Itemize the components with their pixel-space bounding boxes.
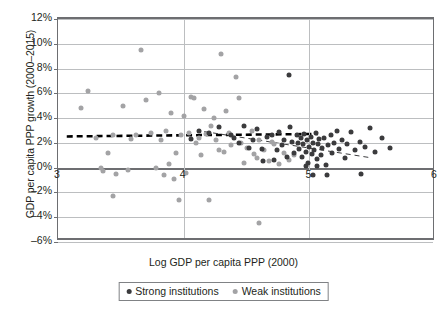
y-tick-label: 4% xyxy=(4,110,52,122)
data-point-strong xyxy=(387,145,392,150)
data-point-weak xyxy=(277,161,282,166)
x-tick-label: 6 xyxy=(431,168,437,180)
gridline-horizontal xyxy=(58,19,433,20)
data-point-weak xyxy=(229,143,234,148)
y-tick-mark xyxy=(54,242,58,243)
data-point-strong xyxy=(297,147,302,152)
y-tick-label: 0% xyxy=(4,160,52,172)
data-point-weak xyxy=(126,168,131,173)
y-tick-mark xyxy=(54,192,58,193)
gridline-horizontal xyxy=(58,93,433,94)
plot-area xyxy=(57,17,434,240)
data-point-strong xyxy=(314,164,319,169)
y-tick-label: –2% xyxy=(4,184,52,196)
data-point-weak xyxy=(113,171,118,176)
data-point-weak xyxy=(219,51,224,56)
data-point-strong xyxy=(302,132,307,137)
data-point-strong xyxy=(274,148,279,153)
data-point-strong xyxy=(308,134,313,139)
x-tick-label: 3 xyxy=(54,168,60,180)
data-point-weak xyxy=(98,165,103,170)
y-tick-label: 10% xyxy=(4,36,52,48)
data-point-strong xyxy=(287,72,292,77)
data-point-weak xyxy=(214,138,219,143)
data-point-weak xyxy=(194,140,199,145)
data-point-weak xyxy=(191,96,196,101)
data-point-strong xyxy=(358,171,363,176)
gridline-horizontal xyxy=(58,143,433,144)
y-tick-label: 8% xyxy=(4,61,52,73)
data-point-strong xyxy=(231,135,236,140)
data-point-strong xyxy=(352,148,357,153)
data-point-strong xyxy=(342,155,347,160)
data-point-weak xyxy=(121,103,126,108)
data-point-strong xyxy=(216,124,221,129)
data-point-weak xyxy=(181,113,186,118)
y-tick-label: –4% xyxy=(4,209,52,221)
data-point-strong xyxy=(299,154,304,159)
data-point-weak xyxy=(111,194,116,199)
data-point-strong xyxy=(367,126,372,131)
gridline-vertical xyxy=(309,19,310,238)
data-point-weak xyxy=(252,152,257,157)
data-point-strong xyxy=(289,139,294,144)
data-point-strong xyxy=(206,130,211,135)
data-point-strong xyxy=(337,147,342,152)
gridline-horizontal xyxy=(58,44,433,45)
data-point-strong xyxy=(292,150,297,155)
x-tick-label: 5 xyxy=(305,168,311,180)
data-point-weak xyxy=(257,138,262,143)
data-point-weak xyxy=(241,160,246,165)
data-point-strong xyxy=(328,133,333,138)
data-point-strong xyxy=(250,138,255,143)
gridline-vertical xyxy=(184,19,185,238)
data-point-weak xyxy=(201,107,206,112)
data-point-weak xyxy=(171,176,176,181)
data-point-strong xyxy=(322,135,327,140)
data-point-strong xyxy=(247,145,252,150)
y-tick-mark xyxy=(54,19,58,20)
legend-marker-weak-icon xyxy=(233,289,238,294)
data-point-weak xyxy=(156,91,161,96)
data-point-strong xyxy=(303,149,308,154)
x-tick-label: 4 xyxy=(180,168,186,180)
y-tick-label: –6% xyxy=(4,234,52,246)
data-point-weak xyxy=(221,149,226,154)
chart-legend: Strong institutions Weak institutions xyxy=(118,282,329,301)
data-point-weak xyxy=(166,161,171,166)
data-point-strong xyxy=(241,123,246,128)
data-point-strong xyxy=(323,163,328,168)
data-point-strong xyxy=(348,129,353,134)
data-point-strong xyxy=(254,127,259,132)
scatter-chart: GDP per capita PPP growth (2000–2015) Lo… xyxy=(0,0,447,311)
data-point-strong xyxy=(288,124,293,129)
data-point-strong xyxy=(332,140,337,145)
trendline-layer xyxy=(58,19,433,238)
gridline-horizontal xyxy=(58,69,433,70)
y-tick-label: 2% xyxy=(4,135,52,147)
data-point-strong xyxy=(324,173,329,178)
data-point-strong xyxy=(312,148,317,153)
data-point-strong xyxy=(318,153,323,158)
y-tick-mark xyxy=(54,93,58,94)
data-point-strong xyxy=(345,142,350,147)
y-tick-label: 6% xyxy=(4,85,52,97)
data-point-weak xyxy=(159,138,164,143)
data-point-weak xyxy=(196,135,201,140)
data-point-weak xyxy=(269,139,274,144)
data-point-strong xyxy=(277,129,282,134)
data-point-strong xyxy=(259,147,264,152)
data-point-strong xyxy=(279,143,284,148)
legend-label-strong: Strong institutions xyxy=(135,285,218,297)
data-point-weak xyxy=(128,137,133,142)
y-tick-label: 12% xyxy=(4,11,52,23)
y-tick-mark xyxy=(54,118,58,119)
data-point-weak xyxy=(154,165,159,170)
legend-item-strong[interactable]: Strong institutions xyxy=(126,285,218,297)
data-point-weak xyxy=(133,133,138,138)
data-point-weak xyxy=(148,130,153,135)
legend-item-weak[interactable]: Weak institutions xyxy=(233,285,321,297)
data-point-strong xyxy=(196,128,201,133)
data-point-strong xyxy=(313,130,318,135)
data-point-weak xyxy=(236,96,241,101)
